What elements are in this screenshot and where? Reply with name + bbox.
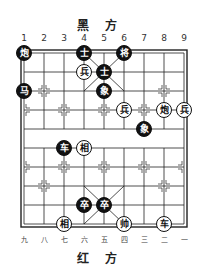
red-piece-相[interactable]: 相 — [76, 140, 92, 156]
black-piece-士[interactable]: 士 — [76, 45, 92, 61]
xiangqi-board — [0, 0, 200, 271]
red-piece-帅[interactable]: 帅 — [116, 216, 132, 232]
black-piece-将[interactable]: 将 — [116, 45, 132, 61]
black-piece-炮[interactable]: 炮 — [16, 45, 32, 61]
red-piece-车[interactable]: 车 — [156, 216, 172, 232]
column-number: 一 — [178, 234, 190, 244]
column-number: 五 — [98, 234, 110, 244]
red-side-title: 红 方 — [0, 249, 200, 266]
red-piece-兵[interactable]: 兵 — [176, 102, 192, 118]
black-piece-象[interactable]: 象 — [96, 83, 112, 99]
black-piece-士[interactable]: 士 — [96, 64, 112, 80]
red-piece-兵[interactable]: 兵 — [76, 64, 92, 80]
black-piece-卒[interactable]: 卒 — [96, 197, 112, 213]
column-number: 三 — [138, 234, 150, 244]
column-number: 四 — [118, 234, 130, 244]
black-piece-车[interactable]: 车 — [56, 140, 72, 156]
column-number: 六 — [78, 234, 90, 244]
column-number: 八 — [38, 234, 50, 244]
column-number: 九 — [18, 234, 30, 244]
black-piece-马[interactable]: 马 — [16, 83, 32, 99]
column-number: 二 — [158, 234, 170, 244]
red-piece-相[interactable]: 相 — [56, 216, 72, 232]
red-piece-兵[interactable]: 兵 — [116, 102, 132, 118]
black-piece-卒[interactable]: 卒 — [76, 197, 92, 213]
red-piece-炮[interactable]: 炮 — [156, 102, 172, 118]
column-number: 七 — [58, 234, 70, 244]
black-piece-象[interactable]: 象 — [136, 121, 152, 137]
